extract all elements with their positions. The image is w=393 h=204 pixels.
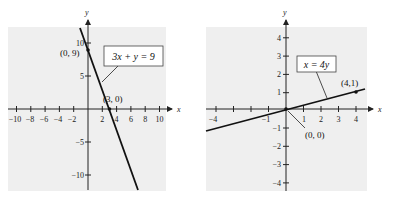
svg-text:6: 6 xyxy=(129,115,133,124)
svg-text:1: 1 xyxy=(302,115,306,124)
svg-text:−10: −10 xyxy=(9,115,22,124)
right-y-axis-name: y xyxy=(282,8,287,17)
right-x-axis-name: x xyxy=(377,105,382,114)
left-y-axis-name: y xyxy=(84,8,89,17)
right-point-label-4-1: (4,1) xyxy=(341,78,358,88)
right-equation-label: x = 4y xyxy=(303,59,330,70)
right-point-4-1 xyxy=(354,90,358,94)
left-equation-label: 3x + y = 9 xyxy=(111,51,154,62)
svg-text:−8: −8 xyxy=(26,115,35,124)
svg-text:10: 10 xyxy=(76,39,84,48)
svg-text:4: 4 xyxy=(277,34,281,43)
svg-text:3: 3 xyxy=(277,52,281,61)
left-point-label-0-9: (0, 9) xyxy=(60,48,80,58)
svg-text:−3: −3 xyxy=(272,160,281,169)
svg-text:1: 1 xyxy=(277,88,281,97)
svg-text:−2: −2 xyxy=(272,142,281,151)
svg-text:2: 2 xyxy=(100,115,104,124)
svg-text:2: 2 xyxy=(319,115,323,124)
svg-text:−10: −10 xyxy=(71,171,84,180)
figure: x y −10 −8 −6 −4 −2 2 4 6 8 10 xyxy=(0,0,393,204)
right-point-0-0 xyxy=(284,107,288,111)
svg-text:8: 8 xyxy=(143,115,147,124)
left-x-axis-name: x xyxy=(176,105,181,114)
svg-text:4: 4 xyxy=(354,115,358,124)
svg-text:2: 2 xyxy=(277,70,281,79)
svg-text:5: 5 xyxy=(80,72,84,81)
svg-text:−4: −4 xyxy=(272,179,281,188)
left-point-3-0 xyxy=(108,107,112,111)
svg-text:−5: −5 xyxy=(75,138,84,147)
left-point-0-9 xyxy=(86,48,90,52)
svg-text:−4: −4 xyxy=(54,115,63,124)
left-graph: x y −10 −8 −6 −4 −2 2 4 6 8 10 xyxy=(8,8,181,191)
svg-text:−4: −4 xyxy=(209,115,218,124)
svg-text:10: 10 xyxy=(156,115,164,124)
left-point-label-3-0: (3, 0) xyxy=(103,94,123,104)
right-graph: x y −4 −1 1 2 3 4 xyxy=(206,8,382,191)
svg-text:−1: −1 xyxy=(272,124,281,133)
svg-text:−2: −2 xyxy=(68,115,77,124)
right-point-label-0-0: (0, 0) xyxy=(305,130,325,140)
svg-text:4: 4 xyxy=(115,115,119,124)
svg-text:−6: −6 xyxy=(40,115,49,124)
svg-text:3: 3 xyxy=(337,115,341,124)
